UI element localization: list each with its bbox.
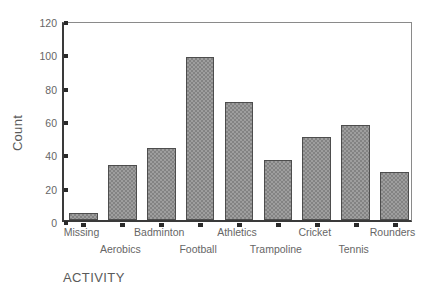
y-axis-tick-label: 120 (28, 17, 64, 29)
bar (380, 172, 409, 220)
bar (264, 160, 293, 220)
x-axis-category-label: Trampoline (250, 243, 302, 255)
x-axis-category-label: Badminton (134, 226, 184, 238)
x-axis-category-label: Aerobics (100, 243, 141, 255)
x-axis-category-labels: MissingAerobicsBadmintonFootballAthletic… (0, 226, 432, 266)
bar (341, 125, 370, 220)
bar (108, 165, 137, 220)
x-axis-category-label: Missing (64, 226, 100, 238)
bar (186, 57, 215, 220)
y-axis-tick-text: 100 (39, 50, 64, 62)
bars-layer (64, 23, 411, 220)
y-axis-tick-mark (64, 221, 68, 225)
y-axis-tick-text: 120 (39, 17, 64, 29)
x-axis-category-label: Athletics (217, 226, 257, 238)
x-axis-category-label: Tennis (338, 243, 368, 255)
x-axis-category-label: Cricket (298, 226, 331, 238)
bar (302, 137, 331, 220)
x-axis-category-label: Rounders (370, 226, 416, 238)
bar (147, 148, 176, 220)
y-axis-tick-label: 60 (28, 117, 64, 129)
y-axis-tick-label: 80 (28, 84, 64, 96)
x-axis-category-label: Football (179, 243, 216, 255)
y-axis-tick-label: 40 (28, 150, 64, 162)
plot-area: 020406080100120 (62, 22, 412, 222)
y-axis-tick-text: 20 (45, 184, 64, 196)
x-axis-title: ACTIVITY (63, 270, 125, 285)
bar-chart-figure: Count 020406080100120 MissingAerobicsBad… (0, 0, 432, 300)
bar (69, 213, 98, 220)
y-axis-tick-label: 100 (28, 50, 64, 62)
y-axis-tick-text: 60 (45, 117, 64, 129)
y-axis-tick-text: 80 (45, 84, 64, 96)
y-axis-tick-label: 20 (28, 184, 64, 196)
y-axis-title: Count (10, 88, 28, 178)
y-axis-tick-text: 40 (45, 150, 64, 162)
bar (225, 102, 254, 220)
